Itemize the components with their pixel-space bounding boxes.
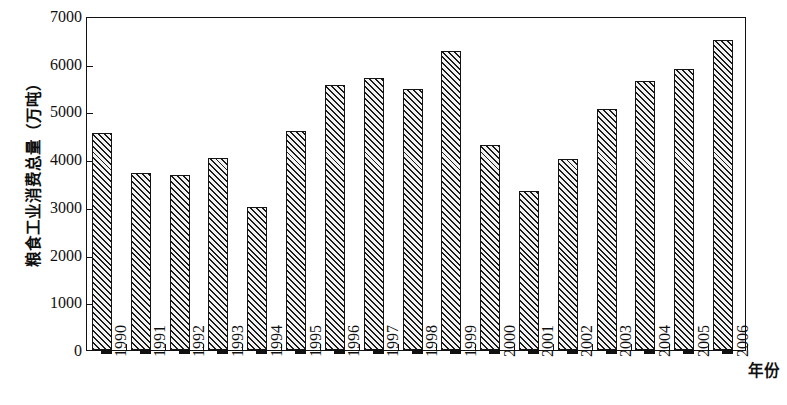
x-axis-tick-label: 1990 bbox=[113, 297, 129, 357]
x-axis-tick-label: 1998 bbox=[424, 297, 440, 357]
x-axis-tick-label: 1995 bbox=[308, 297, 324, 357]
x-axis-tick-label: 2000 bbox=[502, 297, 518, 357]
x-axis-tick-label: 2006 bbox=[735, 297, 751, 357]
x-axis-tick-label: 2002 bbox=[579, 297, 595, 357]
x-axis-tick-label: 1997 bbox=[385, 297, 401, 357]
x-axis-tick-label: 1996 bbox=[346, 297, 362, 357]
x-axis-tick-label: 1999 bbox=[463, 297, 479, 357]
bar-chart: 粮食工业消费总量（万吨） 700060005000400030002000100… bbox=[0, 0, 787, 405]
x-axis-tick-label: 2004 bbox=[657, 297, 673, 357]
x-axis-tick-label: 2003 bbox=[618, 297, 634, 357]
x-axis-tick-label: 1991 bbox=[152, 297, 168, 357]
x-axis-tick-label: 1992 bbox=[191, 297, 207, 357]
x-axis-tick-label: 2005 bbox=[696, 297, 712, 357]
x-axis-tick-label: 1993 bbox=[230, 297, 246, 357]
x-axis-tick-label: 2001 bbox=[540, 297, 556, 357]
x-axis-tick-label: 1994 bbox=[269, 297, 285, 357]
x-axis-title: 年份 bbox=[748, 358, 780, 380]
x-axis-tick-labels: 1990199119921993199419951996199719981999… bbox=[0, 0, 787, 405]
